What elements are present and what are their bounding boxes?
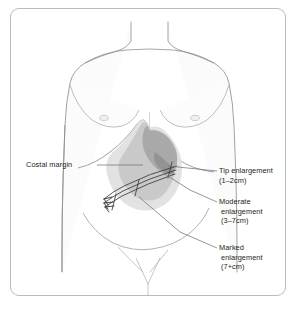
pubic-v-shape [136,258,160,284]
moderate-label-line2: enlargement [219,207,263,217]
costal-margin-text: Costal margin [26,160,72,169]
tip-label-line2: (1–2cm) [219,176,246,185]
tip-label-line1: Tip enlargement [219,166,273,175]
marked-label-line1: Marked [219,243,244,252]
marked-label-line2: enlargement [219,253,263,263]
label-costal-margin: Costal margin [26,160,72,170]
pelvic-brim-line [83,208,209,250]
label-tip-enlargement: Tip enlargement (1–2cm) [219,166,273,185]
moderate-label-line1: Moderate [219,197,251,206]
moderate-label-line3: (3–7cm) [219,216,263,226]
left-nipple-icon [100,115,109,120]
figure-root: Costal margin Tip enlargement (1–2cm) Mo… [0,0,299,311]
groin-contour [118,247,168,272]
label-marked-enlargement: Marked enlargement (7+cm) [219,243,263,272]
right-nipple-icon [191,115,200,120]
marked-label-line3: (7+cm) [219,262,263,272]
label-moderate-enlargement: Moderate enlargement (3–7cm) [219,197,263,226]
